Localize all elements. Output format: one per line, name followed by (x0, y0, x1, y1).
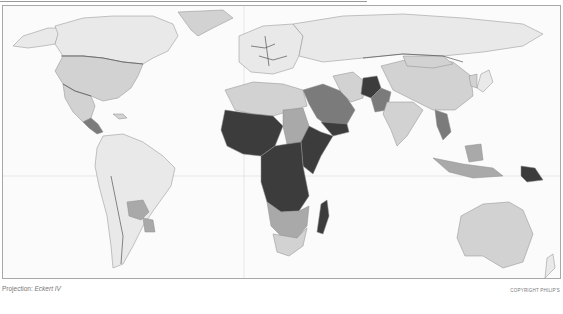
region-japan[interactable] (477, 70, 493, 92)
region-australia[interactable] (457, 202, 533, 268)
world-map-svg (3, 6, 560, 278)
region-new-zealand[interactable] (545, 254, 555, 278)
projection-label: Projection: (2, 285, 33, 292)
projection-caption: Projection: Eckert IV (2, 285, 61, 292)
region-indonesia[interactable] (433, 158, 503, 178)
region-caribbean[interactable] (113, 114, 127, 119)
region-europe[interactable] (239, 24, 303, 74)
region-paraguay[interactable] (143, 218, 155, 232)
region-central-africa[interactable] (261, 142, 309, 212)
region-greenland[interactable] (178, 10, 233, 36)
region-borneo[interactable] (465, 144, 483, 162)
copyright-caption: COPYRIGHT PHILIP'S (510, 288, 560, 293)
region-madagascar[interactable] (317, 200, 329, 234)
region-east-africa[interactable] (301, 126, 333, 174)
world-map (2, 5, 561, 279)
region-southeast-asia[interactable] (435, 110, 451, 140)
legend-top-rule (0, 1, 367, 2)
region-papua-new-guinea[interactable] (521, 166, 543, 182)
region-india[interactable] (383, 102, 423, 146)
region-central-america[interactable] (83, 118, 103, 134)
projection-name: Eckert IV (35, 285, 61, 292)
